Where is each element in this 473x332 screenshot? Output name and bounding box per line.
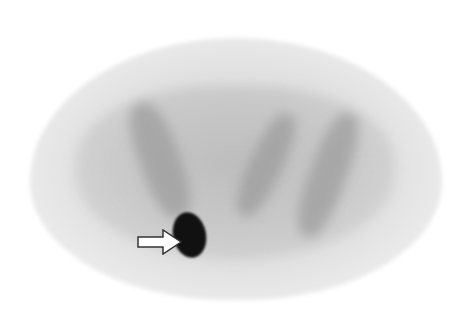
pet-scan-image bbox=[0, 0, 473, 332]
arrow-right-icon bbox=[137, 229, 183, 255]
